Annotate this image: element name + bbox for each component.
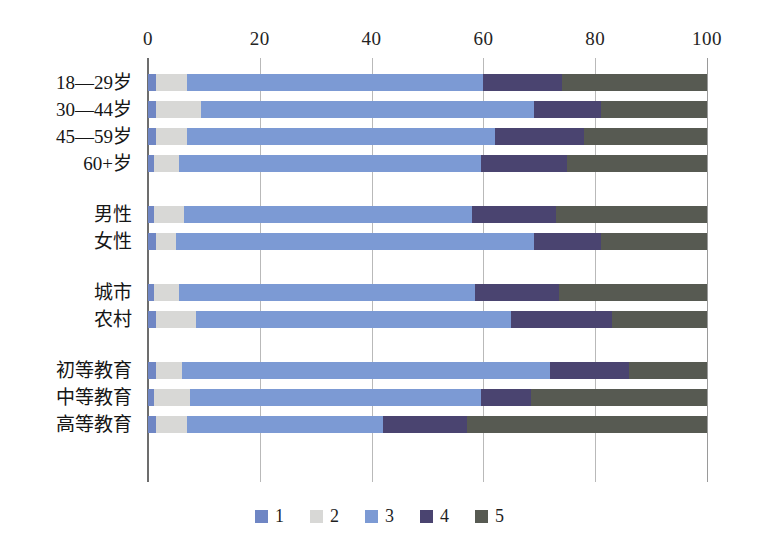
bar-segment-2[interactable] [156,74,187,91]
legend-label: 2 [330,507,339,525]
legend-label: 4 [440,507,449,525]
bar-segment-4[interactable] [534,101,601,118]
bar-segment-1[interactable] [148,311,156,328]
legend-label: 1 [275,507,284,525]
bar-row[interactable] [148,311,707,328]
bar-segment-1[interactable] [148,101,156,118]
bar-segment-2[interactable] [156,128,187,145]
bar-segment-2[interactable] [154,206,185,223]
bar-segment-1[interactable] [148,74,156,91]
bar-segment-2[interactable] [156,416,187,433]
bar-segment-4[interactable] [534,233,601,250]
bar-row[interactable] [148,206,707,223]
y-axis-category-labels: 18—29岁30—44岁45—59岁60+岁男性女性城市农村初等教育中等教育高等… [0,62,142,482]
legend-item-3[interactable]: 3 [365,507,394,525]
bar-segment-3[interactable] [176,233,534,250]
bar-segment-3[interactable] [179,284,475,301]
bar-segment-2[interactable] [156,362,181,379]
legend-swatch-icon [420,510,433,523]
legend-swatch-icon [365,510,378,523]
category-label: 中等教育 [56,388,132,408]
bar-segment-4[interactable] [481,155,568,172]
bar-segment-5[interactable] [562,74,707,91]
bar-segment-3[interactable] [179,155,481,172]
x-tick-label-20: 20 [250,28,270,50]
bar-segment-3[interactable] [201,101,534,118]
category-label: 女性 [94,232,132,252]
legend-item-2[interactable]: 2 [310,507,339,525]
category-label: 18—29岁 [56,73,132,93]
bar-segment-5[interactable] [467,416,707,433]
bar-segment-2[interactable] [154,284,179,301]
bar-segment-3[interactable] [184,206,472,223]
bar-row[interactable] [148,233,707,250]
bar-segment-5[interactable] [629,362,707,379]
legend-label: 5 [495,507,504,525]
legend-swatch-icon [255,510,268,523]
bar-segment-1[interactable] [148,233,156,250]
bar-segment-5[interactable] [612,311,707,328]
bar-segment-3[interactable] [187,74,483,91]
bar-segment-4[interactable] [511,311,612,328]
bar-segment-5[interactable] [601,101,707,118]
bar-segment-4[interactable] [472,206,556,223]
gridline-100 [707,58,708,482]
bar-segment-5[interactable] [567,155,707,172]
x-axis-tick-labels: 020406080100 [0,28,759,54]
bar-segment-4[interactable] [481,389,531,406]
bar-segment-3[interactable] [187,128,494,145]
category-label: 城市 [94,283,132,303]
category-label: 男性 [94,205,132,225]
bar-segment-5[interactable] [556,206,707,223]
bar-segment-3[interactable] [190,389,481,406]
bar-segment-4[interactable] [550,362,628,379]
x-tick-label-100: 100 [692,28,722,50]
category-label: 高等教育 [56,415,132,435]
bar-segment-5[interactable] [559,284,707,301]
bar-segment-3[interactable] [182,362,551,379]
bar-row[interactable] [148,128,707,145]
bar-row[interactable] [148,284,707,301]
legend-item-1[interactable]: 1 [255,507,284,525]
bar-row[interactable] [148,389,707,406]
bar-segment-1[interactable] [148,128,156,145]
plot-area [148,62,707,482]
bar-segment-4[interactable] [495,128,584,145]
chart-legend: 12345 [0,503,759,529]
bar-row[interactable] [148,155,707,172]
x-tick-label-0: 0 [143,28,153,50]
category-label: 60+岁 [83,154,132,174]
category-label: 农村 [94,310,132,330]
category-label: 初等教育 [56,361,132,381]
bar-row[interactable] [148,74,707,91]
x-tick-label-60: 60 [473,28,493,50]
bar-segment-3[interactable] [196,311,512,328]
legend-label: 3 [385,507,394,525]
x-tick-label-80: 80 [585,28,605,50]
category-label: 45—59岁 [56,127,132,147]
bar-segment-2[interactable] [156,101,201,118]
bar-row[interactable] [148,362,707,379]
legend-swatch-icon [475,510,488,523]
bar-segment-2[interactable] [156,233,176,250]
bar-row[interactable] [148,101,707,118]
bar-segment-4[interactable] [475,284,559,301]
bar-row[interactable] [148,416,707,433]
bar-segment-2[interactable] [154,389,190,406]
bar-segment-5[interactable] [601,233,707,250]
category-label: 30—44岁 [56,100,132,120]
bar-segment-4[interactable] [383,416,467,433]
bar-segment-3[interactable] [187,416,383,433]
legend-swatch-icon [310,510,323,523]
bar-segment-2[interactable] [154,155,179,172]
stacked-bar-chart: 020406080100 18—29岁30—44岁45—59岁60+岁男性女性城… [0,0,759,559]
bar-segment-1[interactable] [148,416,156,433]
legend-item-4[interactable]: 4 [420,507,449,525]
bar-segment-1[interactable] [148,362,156,379]
bar-segment-2[interactable] [156,311,195,328]
bar-segment-4[interactable] [483,74,561,91]
legend-item-5[interactable]: 5 [475,507,504,525]
x-tick-label-40: 40 [362,28,382,50]
bar-segment-5[interactable] [531,389,707,406]
bar-segment-5[interactable] [584,128,707,145]
